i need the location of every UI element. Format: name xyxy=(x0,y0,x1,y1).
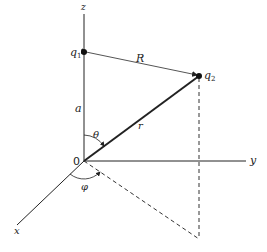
r-vector xyxy=(84,76,199,161)
q2-label: q2 xyxy=(204,69,216,83)
R-label: R xyxy=(135,52,144,65)
x-axis-label: x xyxy=(14,225,20,236)
y-axis-label: y xyxy=(249,154,257,167)
q1-label: q1 xyxy=(70,46,82,60)
diagram-canvas: z y x 0 q1 q2 a R r θ φ xyxy=(0,0,267,252)
r-label: r xyxy=(138,120,144,131)
x-axis xyxy=(17,161,84,225)
a-label: a xyxy=(75,102,82,115)
phi-label: φ xyxy=(81,181,88,192)
phi-arc xyxy=(70,172,100,179)
xy-projection xyxy=(84,161,199,239)
q2-point xyxy=(196,73,202,79)
origin-label: 0 xyxy=(73,155,80,168)
q1-point xyxy=(81,49,87,55)
theta-label: θ xyxy=(93,129,99,140)
z-axis-label: z xyxy=(80,2,86,12)
